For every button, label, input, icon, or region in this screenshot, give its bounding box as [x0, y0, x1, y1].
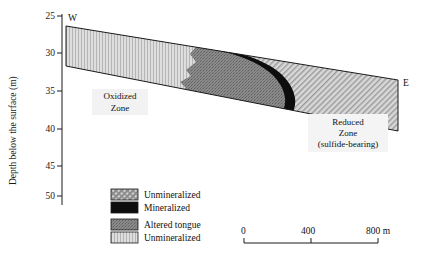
y-tick-label-35: 35	[46, 86, 56, 96]
reduced-zone-line1: Reduced	[332, 117, 364, 127]
cross-section-figure: 25 30 35 40 45 50 Depth below the surfac…	[0, 0, 435, 268]
legend-label-1: Mineralized	[144, 203, 190, 213]
legend-label-3: Unmineralized	[144, 233, 201, 243]
label-oxidized-zone: Oxidized Zone	[92, 89, 148, 115]
label-reduced-zone: Reduced Zone (sulfide-bearing)	[308, 114, 388, 152]
legend-swatch-unmineralized-vertical	[111, 232, 138, 243]
y-tick-label-45: 45	[46, 161, 56, 171]
scale-tick-400: 400	[301, 226, 316, 236]
compass-east-label: E	[403, 78, 409, 88]
oxidized-zone-line2: Zone	[111, 103, 130, 113]
compass-west-label: W	[68, 13, 77, 23]
reduced-zone-line3: (sulfide-bearing)	[318, 139, 378, 149]
scale-tick-800: 800 m	[366, 226, 391, 236]
legend-swatch-mineralized	[111, 202, 138, 213]
y-tick-label-50: 50	[46, 191, 56, 201]
y-axis-title: Depth below the surface (m)	[8, 76, 19, 185]
y-tick-label-25: 25	[46, 11, 56, 21]
y-tick-label-30: 30	[46, 48, 56, 58]
legend-label-0: Unmineralized	[144, 190, 201, 200]
legend-label-2: Altered tongue	[144, 220, 201, 230]
legend-swatch-unmineralized-crosshatch	[111, 189, 138, 200]
y-tick-label-40: 40	[46, 124, 56, 134]
oxidized-zone-line1: Oxidized	[104, 91, 137, 101]
reduced-zone-line2: Zone	[339, 128, 358, 138]
legend-swatch-altered-tongue	[111, 219, 138, 230]
scale-tick-0: 0	[241, 226, 246, 236]
